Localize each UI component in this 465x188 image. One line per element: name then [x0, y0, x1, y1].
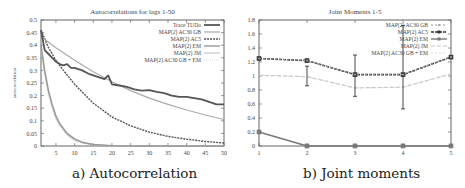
- data-marker: [401, 144, 405, 148]
- y-tick-label: 0.3: [30, 68, 38, 74]
- x-tick-label: 15: [90, 150, 96, 156]
- y-tick-label: 0.2: [30, 93, 38, 99]
- chart-title: Joint Moments 1-5: [329, 8, 382, 16]
- x-tick-label: 5: [54, 150, 57, 156]
- y-tick-label: 0.45: [27, 30, 38, 36]
- x-axis-label: lag: [129, 159, 136, 160]
- series-map-2-em: [257, 130, 453, 148]
- joint-moments-panel: Joint Moments 1-500.20.40.60.811.21.41.6…: [235, 0, 465, 188]
- caption-joint-moments: b) Joint moments: [303, 165, 420, 181]
- legend-label: MAP(2) AC5: [171, 36, 202, 43]
- x-tick-label: 10: [72, 150, 78, 156]
- y-tick-label: 0.2: [248, 129, 256, 135]
- legend-label: MAP(2) JM: [401, 43, 428, 50]
- x-tick-label: 5: [450, 150, 453, 156]
- x-tick-label: 20: [109, 150, 115, 156]
- autocorrelation-panel: Autocorrelations for lags 1-5000.050.10.…: [0, 0, 235, 188]
- x-axis-label: joint moment: [341, 159, 369, 160]
- joint-moments-chart: Joint Moments 1-500.20.40.60.811.21.41.6…: [235, 0, 465, 160]
- legend-marker: [438, 24, 440, 26]
- y-tick-label: 1: [252, 73, 255, 79]
- data-marker: [353, 144, 357, 148]
- y-tick-label: 0.6: [248, 101, 256, 107]
- legend-label: MAP(2) AC5: [398, 29, 429, 36]
- y-tick-label: 0.4: [248, 115, 256, 121]
- y-tick-label: 1.8: [248, 17, 256, 23]
- legend-label: MAP(2) AC30 GB: [159, 29, 202, 36]
- autocorrelation-chart: Autocorrelations for lags 1-5000.050.10.…: [0, 0, 235, 160]
- y-tick-label: 0.35: [27, 55, 38, 61]
- y-axis-label: autocorrelation: [12, 67, 17, 98]
- legend-label: MAP(2) JM: [174, 50, 201, 57]
- x-tick-label: 45: [202, 150, 208, 156]
- chart-title: Autocorrelations for lags 1-50: [90, 8, 175, 16]
- x-tick-label: 1: [258, 150, 261, 156]
- data-marker: [402, 74, 404, 76]
- x-tick-label: 40: [184, 150, 190, 156]
- x-tick-label: 2: [306, 150, 309, 156]
- y-tick-label: 1.6: [248, 31, 256, 37]
- y-tick-label: 0.05: [27, 131, 38, 137]
- x-tick-label: 35: [165, 150, 171, 156]
- caption-autocorrelation: a) Autocorrelation: [72, 165, 197, 181]
- x-tick-label: 3: [354, 150, 357, 156]
- y-tick-label: 0.25: [27, 80, 38, 86]
- data-marker: [450, 56, 452, 58]
- y-tick-label: 0.1: [30, 118, 38, 124]
- y-tick-label: 0.15: [27, 105, 38, 111]
- y-tick-label: 0.4: [30, 42, 38, 48]
- legend: Trace TUDoMAP(2) AC30 GBMAP(2) AC5MAP(2)…: [144, 22, 220, 64]
- data-marker: [305, 144, 309, 148]
- legend-label: MAP(2) AC30 GB + EM: [371, 50, 428, 57]
- legend-label: Trace TUDo: [173, 22, 201, 28]
- x-tick-label: 30: [146, 150, 152, 156]
- y-tick-label: 0: [252, 143, 255, 149]
- legend-label: MAP(2) EM: [173, 43, 201, 50]
- legend-marker: [438, 31, 441, 34]
- x-tick-label: 25: [128, 150, 134, 156]
- y-tick-label: 0: [34, 143, 37, 149]
- y-tick-label: 0.8: [248, 87, 256, 93]
- data-marker: [449, 144, 453, 148]
- y-tick-label: 0.5: [30, 17, 38, 23]
- legend-label: MAP(2) EM: [400, 36, 428, 43]
- data-marker: [354, 74, 356, 76]
- legend: MAP(2) AC30 GBMAP(2) AC5MAP(2) EMMAP(2) …: [371, 22, 447, 57]
- x-tick-label: 4: [402, 150, 405, 156]
- legend-marker: [438, 38, 441, 41]
- data-marker: [257, 130, 261, 134]
- legend-label: MAP(2) AC30 GB + EM: [144, 57, 201, 64]
- y-tick-label: 1.2: [248, 59, 256, 65]
- y-tick-label: 1.4: [248, 45, 256, 51]
- x-tick-label: 50: [221, 150, 227, 156]
- legend-label: MAP(2) AC30 GB: [386, 22, 429, 29]
- data-marker: [258, 57, 260, 59]
- data-marker: [306, 60, 308, 62]
